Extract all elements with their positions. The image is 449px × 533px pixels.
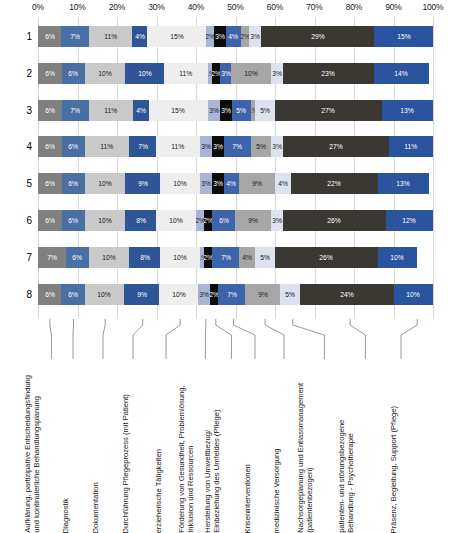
bar-segment: 2% [204,210,212,231]
category-label-line: (patientenbezogen) [306,383,315,533]
bar-segment: 6% [62,210,86,231]
bar-segment: 12% [386,210,433,231]
bar-segment-value: 12% [402,217,415,224]
bar-segment-value: 4% [227,180,237,187]
bar-segment-value: 3% [221,70,231,77]
bar-segment: 7% [212,247,240,268]
bar-segment: 7% [61,26,88,47]
category-label-line: und kontinuierliche Behandlungsplanung [33,375,42,533]
bar-segment: 7% [129,136,157,157]
bar-segment-value: 10% [98,217,111,224]
bar-segment: 11% [389,136,432,157]
category-label-line: Inklusion und Ressourcen [187,386,196,533]
x-axis-tick: 40% [188,2,204,12]
bar-segment-value: 10% [407,291,420,298]
bar-segment-value: 2% [241,33,249,40]
category-label-line: Dokumentation [91,482,100,533]
bar-segment-value: 9% [258,291,268,298]
x-axis-tick: 80% [346,2,362,12]
bar-segment-value: 6% [69,70,79,77]
category-label: erzieherische Tätigkeiten [154,449,163,533]
bar-segment-value: 27% [322,107,335,114]
bar-segment: 9% [125,173,161,194]
bar-segment: 14% [374,63,429,84]
category-label: Aufklärung, partizipative Entscheidungsf… [23,375,42,533]
category-label: Nachsorgeplanung und Entlassmanagement(p… [296,383,315,533]
bar-row: 36%7%11%4%15%3%3%5%1%5%27%13% [38,100,433,121]
bar-segment: 2% [212,63,220,84]
category-label: Förderung von Gesundheit, Problemlösung,… [177,386,196,533]
bar-segment: 3% [220,100,232,121]
bar-segment: 4% [275,173,291,194]
bar-segment-value: 9% [138,180,148,187]
bar-segment: 8% [125,210,157,231]
bar-segment-value: 8% [136,217,146,224]
bar-segment-value: 6% [69,180,79,187]
bar-segment-value: 24% [340,291,353,298]
bar-segment: 15% [149,100,208,121]
bar-segment: 10% [160,247,200,268]
bar-segment-value: 2% [212,70,220,77]
bar-segment: 10% [85,63,125,84]
bar-segment: 7% [38,247,66,268]
row-number-label: 7 [14,247,32,268]
bar-segment-value: 6% [68,291,78,298]
category-label-line: Herstellung von Umweltbezug/ [203,410,212,533]
bar-segment-value: 10% [98,180,111,187]
bar-segment: 3% [271,136,283,157]
bar-segment-value: 6% [45,144,55,151]
bar-segment: 6% [66,247,90,268]
bar-segment-value: 9% [252,180,262,187]
bar-segment: 11% [85,136,128,157]
bar-row: 26%6%10%10%11%1%2%3%10%3%23%14% [38,63,433,84]
bar-segment-value: 3% [221,107,231,114]
bar-segment-value: 3% [201,180,211,187]
bar-rows: 16%7%11%4%15%2%3%4%2%3%29%15%26%6%10%10%… [38,17,433,319]
bar-segment: 6% [38,284,61,305]
bar-segment-value: 4% [242,254,252,261]
bar-segment-value: 3% [213,144,223,151]
bar-segment: 10% [394,284,433,305]
bar-segment-value: 10% [138,70,151,77]
bar-segment-value: 10% [98,70,111,77]
x-axis-tick: 60% [267,2,283,12]
bar-segment-value: 7% [138,144,148,151]
row-number-label: 5 [14,173,32,194]
bar-segment: 5% [232,100,252,121]
bar-segment: 26% [283,210,386,231]
x-axis-tick: 0% [32,2,44,12]
bar-segment-value: 3% [272,217,282,224]
bar-segment-value: 7% [233,144,243,151]
bar-segment-value: 11% [101,144,114,151]
bar-segment-value: 10% [173,254,186,261]
bar-segment-value: 6% [45,180,55,187]
bar-segment: 6% [62,63,86,84]
x-axis-tick: 70% [306,2,322,12]
bar-segment: 4% [133,100,149,121]
bar-segment: 2% [204,247,212,268]
bar-segment: 29% [261,26,374,47]
bar-segment: 3% [212,136,224,157]
bar-segment: 6% [62,136,86,157]
bar-segment-value: 6% [45,291,55,298]
bar-row: 46%6%11%7%11%3%3%7%5%3%27%11% [38,136,433,157]
bar-segment-value: 2% [210,291,218,298]
gridline [433,17,434,319]
plot-area: 16%7%11%4%15%2%3%4%2%3%29%15%26%6%10%10%… [38,17,433,319]
category-label-line: erzieherische Tätigkeiten [154,449,163,533]
bar-segment: 3% [271,63,283,84]
bar-segment: 11% [156,136,199,157]
bar-segment-value: 6% [45,107,55,114]
category-label: Dokumentation [91,482,100,533]
bar-segment: 4% [239,247,255,268]
bar-row: 86%6%10%9%10%3%2%7%9%5%24%10% [38,284,433,305]
bar-segment: 10% [85,173,125,194]
bar-segment-value: 3% [272,70,282,77]
bar-segment: 27% [275,100,382,121]
bar-segment: 2% [196,210,204,231]
bar-segment: 4% [224,173,240,194]
bar-segment: 6% [62,173,86,194]
bar-segment: 5% [251,136,271,157]
bar-segment-value: 5% [260,254,270,261]
stacked-bar-chart: 0%10%20%30%40%50%60%70%80%90%100% 16%7%1… [0,0,449,533]
